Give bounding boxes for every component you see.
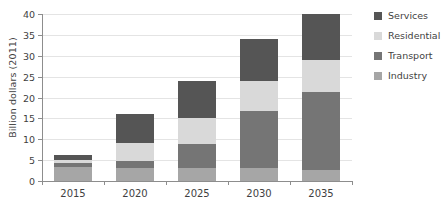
legend-item-residential[interactable]: Residential: [374, 31, 440, 41]
y-tick-label: 10: [23, 134, 35, 145]
y-tick-label: 30: [23, 50, 35, 61]
x-tick-mark: [290, 181, 291, 185]
legend-swatch-icon: [374, 12, 382, 20]
legend-label: Residential: [388, 31, 440, 41]
legend-item-services[interactable]: Services: [374, 11, 440, 21]
stacked-bar-chart: Billion dollars (2011) 0510152025303540 …: [0, 0, 444, 211]
legend-label: Industry: [388, 71, 427, 81]
x-tick-label: 2015: [60, 188, 85, 199]
y-tick-label: 5: [29, 155, 35, 166]
x-tick-label: 2035: [308, 188, 333, 199]
y-tick-label: 40: [23, 9, 35, 20]
plot-area: 0510152025303540 20152020202520302035: [42, 14, 352, 181]
legend: ServicesResidentialTransportIndustry: [374, 11, 440, 81]
x-tick-mark: [104, 181, 105, 185]
legend-swatch-icon: [374, 32, 382, 40]
y-tick-label: 0: [29, 176, 35, 187]
x-tick-mark: [166, 181, 167, 185]
legend-label: Transport: [388, 51, 433, 61]
legend-swatch-icon: [374, 72, 382, 80]
legend-label: Services: [388, 11, 428, 21]
x-tick-mark: [228, 181, 229, 185]
x-tick-mark: [42, 181, 43, 185]
y-tick-label: 25: [23, 71, 35, 82]
x-tick-label: 2030: [246, 188, 271, 199]
y-tick-label: 35: [23, 29, 35, 40]
x-tick-mark: [352, 181, 353, 185]
y-tick-label: 15: [23, 113, 35, 124]
x-axis-ticks: 20152020202520302035: [42, 14, 352, 181]
y-tick-label: 20: [23, 92, 35, 103]
x-tick-label: 2020: [122, 188, 147, 199]
legend-swatch-icon: [374, 52, 382, 60]
legend-item-industry[interactable]: Industry: [374, 71, 440, 81]
legend-item-transport[interactable]: Transport: [374, 51, 440, 61]
x-tick-label: 2025: [184, 188, 209, 199]
x-axis-baseline: [42, 181, 352, 182]
y-axis-title: Billion dollars (2011): [7, 13, 18, 163]
